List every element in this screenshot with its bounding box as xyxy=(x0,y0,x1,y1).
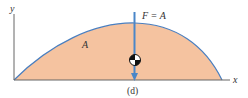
x-axis-label: x xyxy=(232,74,238,85)
figure-d: y x A F = A (d) xyxy=(0,0,248,98)
area-label: A xyxy=(81,39,89,50)
diagram-canvas: y x A F = A (d) xyxy=(0,0,248,98)
area-region xyxy=(14,23,222,80)
centroid-symbol-icon xyxy=(130,55,141,66)
figure-caption: (d) xyxy=(127,86,138,97)
y-axis-label: y xyxy=(9,3,15,14)
force-label: F = A xyxy=(141,10,167,21)
